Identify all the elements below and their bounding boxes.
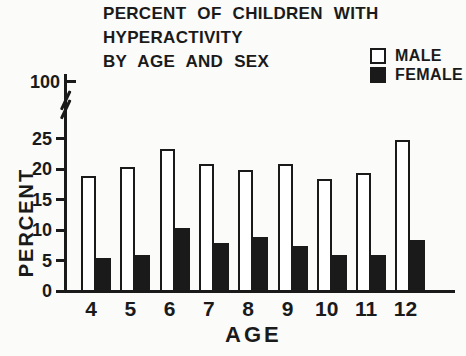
chart-title-line-1: PERCENT OF CHILDREN WITH	[103, 2, 378, 26]
bar-female-age-5	[135, 255, 150, 292]
x-tick-label: 9	[270, 297, 306, 321]
bar-female-age-9	[293, 246, 308, 292]
legend-item-female: FEMALE	[370, 65, 463, 84]
y-tick-mark	[56, 259, 64, 262]
chart-title-line-3: BY AGE AND SEX	[103, 50, 378, 74]
y-axis-break-top-label: 100	[8, 73, 60, 91]
x-tick-label: 10	[309, 297, 345, 321]
legend-label-male: MALE	[395, 47, 442, 65]
bar-female-age-4	[96, 258, 111, 292]
y-tick-label: 25	[0, 128, 52, 150]
y-tick-mark	[56, 137, 64, 140]
bar-male-age-11	[356, 173, 371, 292]
y-tick-label: 5	[0, 250, 52, 272]
y-axis-top-tick-mark	[67, 80, 76, 83]
y-tick-mark	[56, 229, 64, 232]
bar-male-age-6	[160, 149, 175, 292]
bar-female-age-8	[253, 237, 268, 292]
legend-item-male: MALE	[370, 46, 463, 65]
chart-title-line-2: HYPERACTIVITY	[103, 26, 378, 50]
bar-male-age-8	[238, 170, 253, 292]
legend-label-female: FEMALE	[395, 66, 463, 84]
bar-female-age-6	[175, 228, 190, 292]
x-axis-title: AGE	[225, 322, 282, 348]
y-tick-label: 10	[0, 219, 52, 241]
bar-female-age-7	[214, 243, 229, 292]
bar-male-age-9	[278, 164, 293, 292]
bar-female-age-12	[410, 240, 425, 292]
x-tick-label: 7	[191, 297, 227, 321]
legend: MALE FEMALE	[370, 46, 463, 84]
x-tick-label: 4	[73, 297, 109, 321]
x-tick-label: 12	[387, 297, 423, 321]
chart-title: PERCENT OF CHILDREN WITH HYPERACTIVITY B…	[103, 2, 378, 74]
male-swatch-icon	[370, 48, 386, 64]
y-tick-mark	[56, 198, 64, 201]
x-tick-label: 8	[230, 297, 266, 321]
bar-male-age-12	[395, 140, 410, 293]
x-tick-label: 6	[152, 297, 188, 321]
y-tick-label: 20	[0, 158, 52, 180]
y-tick-label: 15	[0, 189, 52, 211]
bar-male-age-7	[199, 164, 214, 292]
bar-female-age-10	[332, 255, 347, 292]
x-tick-label: 5	[112, 297, 148, 321]
female-swatch-icon	[370, 67, 386, 83]
bar-female-age-11	[371, 255, 386, 292]
bar-male-age-5	[120, 167, 135, 292]
bar-male-age-10	[317, 179, 332, 292]
x-tick-label: 11	[348, 297, 384, 321]
y-tick-mark	[56, 168, 64, 171]
y-tick-mark	[56, 290, 64, 293]
bar-male-age-4	[81, 176, 96, 292]
y-tick-label: 0	[0, 280, 52, 302]
bar-chart-figure: PERCENT OF CHILDREN WITH HYPERACTIVITY B…	[0, 0, 466, 356]
